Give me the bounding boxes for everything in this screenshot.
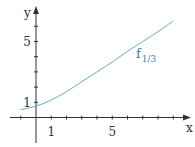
y-tick-labels: 15 <box>23 35 31 110</box>
x-tick-labels: 15 <box>47 125 116 139</box>
function-plot: 15 15 x y f1/3 <box>0 0 195 147</box>
x-axis-arrow-icon <box>183 115 191 121</box>
y-tick-label: 5 <box>23 35 31 49</box>
function-curve <box>21 21 174 110</box>
x-tick-label: 5 <box>108 125 116 139</box>
x-axis-label: x <box>186 121 193 135</box>
y-axis-arrow-icon <box>33 6 39 14</box>
y-axis-label: y <box>23 6 31 20</box>
x-tick-label: 1 <box>47 125 55 139</box>
function-label-subscript: 1/3 <box>142 54 157 64</box>
function-label: f1/3 <box>136 46 157 64</box>
